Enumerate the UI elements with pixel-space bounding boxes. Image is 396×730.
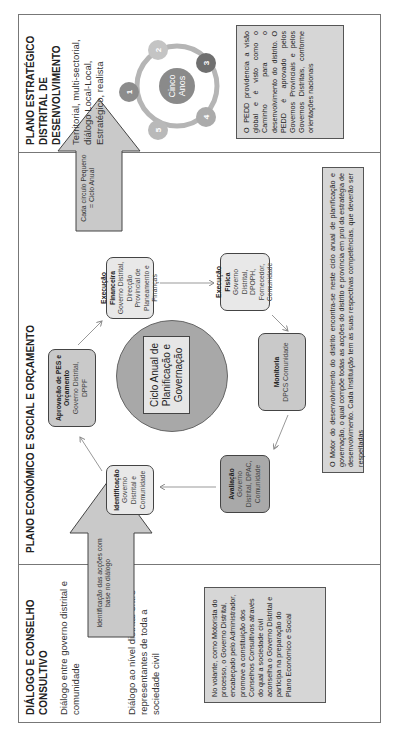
- strategic-plan-title: PLANO ESTRATÉGICO DISTRITAL DE DESENVOLV…: [24, 20, 63, 145]
- strategic-plan-text: Territorial, multi-sectorial, diálogo Lo…: [70, 20, 106, 145]
- diagram-rotated: DIÁLOGO E CONSELHO CONSULTIVO Diálogo en…: [18, 14, 381, 723]
- cycle-node-2: 2: [148, 40, 168, 60]
- economic-plan-title: PLANO ECONÓMICO E SOCIAL E ORÇAMENTO: [24, 253, 37, 553]
- dialogue-title: DIÁLOGO E CONSELHO CONSULTIVO: [24, 575, 50, 715]
- cycle-node-1: 1: [119, 82, 139, 102]
- cycle-node-5: 5: [148, 120, 168, 140]
- cycle-node-4: 4: [196, 107, 216, 127]
- dialogue-note: No volante, como Motorista do processo, …: [204, 587, 326, 703]
- economic-plan-note: O Motor do desenvolvimento do distrito e…: [322, 167, 364, 473]
- cycle-arrow-label: Cada círculo Pequeno = Ciclo Anual: [80, 153, 97, 223]
- cycle-node-3: 3: [196, 53, 216, 73]
- cycle-arrows-icon: [38, 233, 318, 553]
- strategic-plan-note: O PEDD providencia a visão global e é vi…: [236, 25, 344, 139]
- five-year-center: Cinco Anos: [159, 68, 195, 104]
